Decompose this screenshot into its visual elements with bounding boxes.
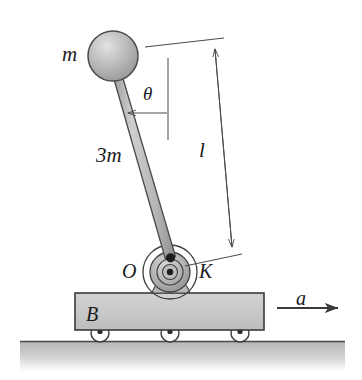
end-mass-ball xyxy=(88,31,138,81)
label-ball-mass: m xyxy=(62,44,77,65)
physics-diagram-figure: m 3m θ l O K B a xyxy=(0,0,362,380)
label-hub-point-k: K xyxy=(199,261,212,281)
label-cart-body-b: B xyxy=(86,304,98,324)
label-angle-theta: θ xyxy=(143,84,152,103)
ground-surface xyxy=(20,341,345,371)
diagram-canvas xyxy=(0,0,362,380)
label-rod-mass: 3m xyxy=(96,145,122,166)
label-length: l xyxy=(199,140,205,161)
label-acceleration: a xyxy=(296,288,306,308)
label-pivot-point-o: O xyxy=(122,261,136,281)
pendulum-rod xyxy=(113,77,175,263)
